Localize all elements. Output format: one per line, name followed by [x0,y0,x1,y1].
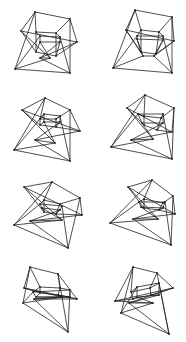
tesseract-figure-5 [0,170,93,261]
wireframe-svg [0,170,93,257]
tesseract-figure-2 [93,0,186,91]
tesseract-figure-1 [0,0,93,91]
wireframe-svg [93,255,186,342]
tesseract-figure-7 [0,255,93,342]
tesseract-figure-8 [93,255,186,342]
wireframe-svg [93,170,186,257]
tesseract-figure-4 [93,85,186,176]
tesseract-figure-3 [0,85,93,176]
wireframe-svg [0,85,93,172]
wireframe-svg [93,85,186,172]
wireframe-svg [0,255,93,342]
wireframe-svg [93,0,186,87]
wireframe-svg [0,0,93,87]
tesseract-figure-6 [93,170,186,261]
